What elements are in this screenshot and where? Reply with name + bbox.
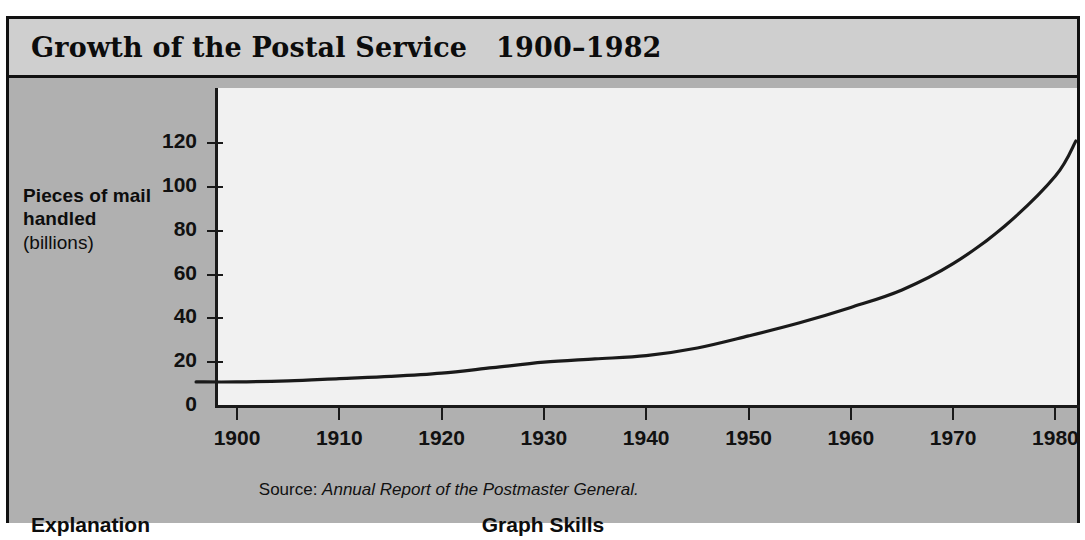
source-citation: Annual Report of the Postmaster General. [322,480,639,499]
x-tick-label-1920: 1920 [402,426,482,450]
x-tick-label-1930: 1930 [504,426,584,450]
graph-skills-heading: Graph Skills [9,513,1077,537]
footer-row: Explanation Graph Skills [9,499,1077,540]
x-tick-label-1900: 1900 [197,426,277,450]
figure-panel: Growth of the Postal Service 1900–1982 P… [6,16,1080,523]
x-tick-label-1960: 1960 [811,426,891,450]
source-label: Source: [259,480,322,499]
x-tick-label-1980: 1980 [1015,426,1085,450]
x-tick-label-1950: 1950 [709,426,789,450]
x-tick-label-1970: 1970 [913,426,993,450]
figure-title-band: Growth of the Postal Service 1900–1982 [9,19,1077,78]
x-tick-label-1940: 1940 [606,426,686,450]
series-line-pieces-of-mail-handled [196,141,1076,382]
data-curve [9,78,1083,418]
x-tick-label-1910: 1910 [299,426,379,450]
chart-region: Pieces of mail handled (billions) 020406… [9,78,1077,523]
page-title: Growth of the Postal Service 1900–1982 [9,32,662,63]
